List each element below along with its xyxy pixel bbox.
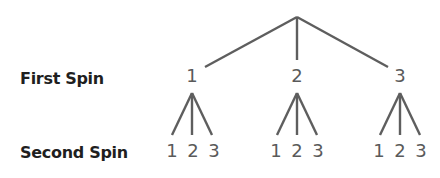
second-spin-node-2-1: 1 [270, 142, 281, 160]
second-spin-node-2-2: 2 [291, 142, 302, 160]
branch-3-to-3 [400, 93, 420, 135]
first-spin-node-3: 3 [394, 67, 405, 85]
branch-root-to-3 [297, 17, 388, 67]
second-spin-node-3-1: 1 [373, 142, 384, 160]
second-spin-node-3-3: 3 [415, 142, 426, 160]
first-spin-node-2: 2 [291, 67, 302, 85]
second-spin-node-3-2: 2 [394, 142, 405, 160]
second-spin-node-1-2: 2 [187, 142, 198, 160]
branch-2-to-3 [297, 93, 317, 135]
second-spin-node-1-3: 3 [208, 142, 219, 160]
branch-1-to-1 [172, 93, 192, 135]
second-spin-node-2-3: 3 [312, 142, 323, 160]
branch-root-to-1 [205, 17, 297, 67]
tree-diagram: First Spin Second Spin 1 2 3 1 2 3 1 2 3… [0, 0, 440, 178]
branch-3-to-1 [380, 93, 400, 135]
first-spin-node-1: 1 [186, 67, 197, 85]
second-spin-node-1-1: 1 [166, 142, 177, 160]
first-spin-label: First Spin [20, 69, 104, 88]
second-spin-label: Second Spin [20, 143, 128, 162]
branch-2-to-1 [277, 93, 297, 135]
branch-1-to-3 [192, 93, 212, 135]
